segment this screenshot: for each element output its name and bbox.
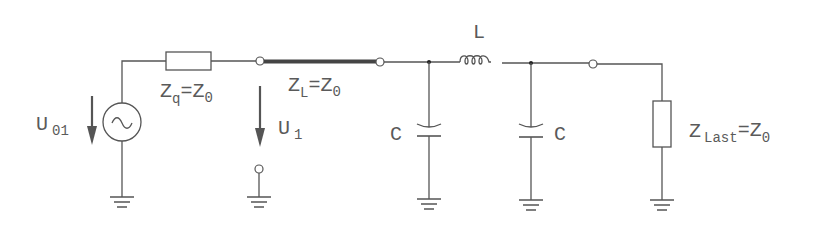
label-l: L [473,21,485,44]
ground-icon [247,197,271,207]
inductor-symbol [460,56,491,64]
arrow-head-icon [87,126,97,145]
terminal-node [589,60,597,68]
label-c2: C [554,123,566,146]
ground-icon [650,200,674,210]
label-u1: U1 [278,117,302,143]
ground-icon [417,199,441,209]
terminal-node [256,57,264,65]
load-wire [597,64,662,101]
terminal-node [255,165,263,173]
load-resistor [653,101,671,147]
label-zlast: ZLast=Z0 [689,119,770,146]
ground-icon [519,200,543,210]
ground-icon [110,197,134,207]
sine-wave-icon [112,118,132,129]
terminal-node [376,58,384,66]
arrow-head-icon [255,128,265,147]
label-zq: Zq=Z0 [160,80,213,107]
label-c1: C [390,123,402,146]
label-zl: ZL=Z0 [288,74,341,101]
label-u01: U01 [36,113,69,139]
source-resistor [166,52,211,70]
circuit-diagram: U01 Zq=Z0 ZL=Z0 U1 C L C ZLast=Z0 [0,0,829,225]
